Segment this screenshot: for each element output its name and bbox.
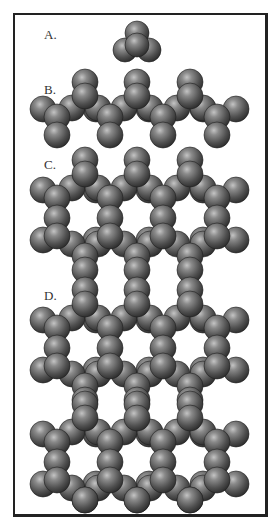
atom-sphere-c: [97, 223, 123, 249]
atom-sphere-d: [177, 487, 203, 513]
atom-sphere-b: [124, 83, 150, 109]
molecule-diagram: [0, 0, 279, 530]
atom-sphere-d: [44, 467, 70, 493]
atom-sphere-d: [124, 405, 150, 431]
atom-sphere-c: [177, 161, 203, 187]
atom-sphere-d: [204, 353, 230, 379]
atom-sphere-c: [44, 223, 70, 249]
atom-sphere-d: [97, 353, 123, 379]
atom-sphere-c: [204, 223, 230, 249]
atom-sphere-b: [44, 122, 70, 148]
atom-sphere-d: [150, 353, 176, 379]
atom-sphere-d: [150, 467, 176, 493]
atom-sphere-d: [44, 353, 70, 379]
atom-sphere-d: [177, 291, 203, 317]
atom-sphere-d: [124, 487, 150, 513]
atom-sphere-d: [177, 405, 203, 431]
atom-sphere-b: [204, 122, 230, 148]
atom-sphere-b: [72, 83, 98, 109]
atom-sphere-b: [177, 83, 203, 109]
atom-sphere-d: [204, 467, 230, 493]
atom-sphere-d: [72, 487, 98, 513]
atom-sphere-a: [125, 33, 149, 57]
atom-sphere-d: [72, 291, 98, 317]
atom-sphere-b: [150, 122, 176, 148]
atom-sphere-c: [124, 161, 150, 187]
atom-sphere-d: [124, 291, 150, 317]
atom-sphere-d: [97, 467, 123, 493]
atom-sphere-c: [150, 223, 176, 249]
atom-sphere-d: [72, 405, 98, 431]
atom-sphere-c: [72, 161, 98, 187]
atom-sphere-b: [97, 122, 123, 148]
